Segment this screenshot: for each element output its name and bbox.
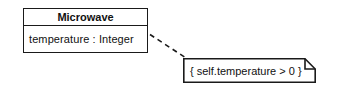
class-attributes-compartment: temperature : Integer [24, 26, 147, 52]
class-name-compartment: Microwave [24, 9, 147, 26]
class-attribute-item: temperature : Integer [29, 33, 134, 45]
note-text-label: { self.temperature > 0 } [190, 58, 302, 83]
uml-class-box[interactable]: Microwave temperature : Integer [23, 8, 148, 53]
dashed-anchor-line [150, 35, 186, 59]
class-name-label: Microwave [57, 11, 113, 23]
uml-diagram-canvas: Microwave temperature : Integer { self.t… [0, 0, 342, 88]
uml-constraint-note[interactable]: { self.temperature > 0 } [183, 58, 316, 83]
